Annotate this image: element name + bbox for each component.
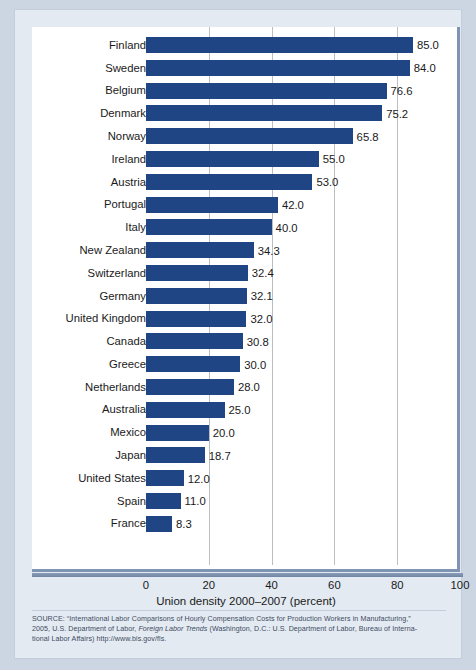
bar[interactable] bbox=[146, 516, 172, 532]
bar-row[interactable]: Mexico20.0 bbox=[32, 422, 457, 445]
bar-category-label: Sweden bbox=[34, 63, 146, 74]
bar[interactable] bbox=[146, 219, 272, 235]
bar-track: 42.0 bbox=[146, 194, 457, 217]
bar[interactable] bbox=[146, 288, 247, 304]
bar-value-label: 12.0 bbox=[184, 473, 210, 485]
bar-rows: Finland85.0Sweden84.0Belgium76.6Denmark7… bbox=[32, 34, 457, 558]
bar[interactable] bbox=[146, 83, 387, 99]
source-line-2-part-a: 2005, U.S. Department of Labor, bbox=[32, 625, 138, 633]
bar-value-label: 53.0 bbox=[312, 176, 338, 188]
bar-track: 65.8 bbox=[146, 125, 457, 148]
x-tick-label: 60 bbox=[328, 579, 341, 591]
bar[interactable] bbox=[146, 447, 205, 463]
bar-track: 8.3 bbox=[146, 513, 457, 536]
bar[interactable] bbox=[146, 37, 413, 53]
bar[interactable] bbox=[146, 242, 254, 258]
source-note: SOURCE: “International Labor Comparisons… bbox=[32, 614, 452, 644]
bar-row[interactable]: Denmark75.2 bbox=[32, 102, 457, 125]
bar-row[interactable]: Japan18.7 bbox=[32, 444, 457, 467]
bar[interactable] bbox=[146, 379, 234, 395]
bar-value-label: 20.0 bbox=[209, 427, 235, 439]
bar-row[interactable]: Greece30.0 bbox=[32, 353, 457, 376]
bar-row[interactable]: Belgium76.6 bbox=[32, 80, 457, 103]
bar-row[interactable]: Norway65.8 bbox=[32, 125, 457, 148]
source-line-1: SOURCE: “International Labor Comparisons… bbox=[32, 614, 452, 624]
bar-track: 30.8 bbox=[146, 330, 457, 353]
bar-category-label: Mexico bbox=[34, 427, 146, 438]
bar-category-label: Spain bbox=[34, 496, 146, 507]
bar-row[interactable]: Switzerland32.4 bbox=[32, 262, 457, 285]
bar-row[interactable]: Germany32.1 bbox=[32, 285, 457, 308]
bar[interactable] bbox=[146, 311, 246, 327]
bar-value-label: 30.0 bbox=[240, 359, 266, 371]
bar-row[interactable]: Ireland55.0 bbox=[32, 148, 457, 171]
bar-category-label: New Zealand bbox=[34, 245, 146, 256]
bar-value-label: 40.0 bbox=[272, 222, 298, 234]
bar[interactable] bbox=[146, 425, 209, 441]
bar[interactable] bbox=[146, 197, 278, 213]
bar-category-label: United States bbox=[34, 473, 146, 484]
bar-category-label: Finland bbox=[34, 40, 146, 51]
chart-panel: Finland85.0Sweden84.0Belgium76.6Denmark7… bbox=[32, 27, 460, 572]
bar-row[interactable]: United States12.0 bbox=[32, 467, 457, 490]
bar[interactable] bbox=[146, 60, 410, 76]
bar-row[interactable]: Austria53.0 bbox=[32, 171, 457, 194]
bar-row[interactable]: Finland85.0 bbox=[32, 34, 457, 57]
bar-row[interactable]: United Kingdom32.0 bbox=[32, 308, 457, 331]
bar-category-label: France bbox=[34, 518, 146, 529]
bar-value-label: 28.0 bbox=[234, 381, 260, 393]
bar-category-label: Canada bbox=[34, 336, 146, 347]
bar-category-label: Switzerland bbox=[34, 268, 146, 279]
bar-row[interactable]: New Zealand34.3 bbox=[32, 239, 457, 262]
x-axis-line bbox=[32, 573, 463, 577]
bar-value-label: 8.3 bbox=[172, 518, 192, 530]
source-publication-title: Foreign Labor Trends bbox=[138, 625, 207, 633]
bar[interactable] bbox=[146, 402, 225, 418]
bar-value-label: 76.6 bbox=[387, 85, 413, 97]
bar-track: 32.0 bbox=[146, 308, 457, 331]
bar[interactable] bbox=[146, 356, 240, 372]
bar[interactable] bbox=[146, 333, 243, 349]
bar-row[interactable]: Canada30.8 bbox=[32, 330, 457, 353]
bar-track: 20.0 bbox=[146, 422, 457, 445]
bar-track: 85.0 bbox=[146, 34, 457, 57]
bar-value-label: 55.0 bbox=[319, 153, 345, 165]
bar-value-label: 32.0 bbox=[246, 313, 272, 325]
source-line-2-part-b: (Washington, D.C.: U.S. Department of La… bbox=[207, 625, 417, 633]
bar-category-label: Belgium bbox=[34, 85, 146, 96]
bar-value-label: 32.1 bbox=[247, 290, 273, 302]
bar-row[interactable]: Portugal42.0 bbox=[32, 194, 457, 217]
bar-value-label: 84.0 bbox=[410, 62, 436, 74]
bar-track: 84.0 bbox=[146, 57, 457, 80]
bar-row[interactable]: Netherlands28.0 bbox=[32, 376, 457, 399]
bar-row[interactable]: Sweden84.0 bbox=[32, 57, 457, 80]
plot-area: Finland85.0Sweden84.0Belgium76.6Denmark7… bbox=[32, 27, 457, 569]
bar-value-label: 25.0 bbox=[225, 404, 251, 416]
bar-row[interactable]: Australia25.0 bbox=[32, 399, 457, 422]
x-axis-tick-labels: 020406080100 bbox=[32, 579, 460, 595]
bar-category-label: Norway bbox=[34, 131, 146, 142]
bar[interactable] bbox=[146, 128, 353, 144]
bar[interactable] bbox=[146, 105, 382, 121]
bar-track: 40.0 bbox=[146, 216, 457, 239]
bar-category-label: Portugal bbox=[34, 199, 146, 210]
bar-track: 32.4 bbox=[146, 262, 457, 285]
bar-row[interactable]: France8.3 bbox=[32, 513, 457, 536]
bar[interactable] bbox=[146, 174, 312, 190]
bar[interactable] bbox=[146, 151, 319, 167]
bar[interactable] bbox=[146, 470, 184, 486]
x-axis-title: Union density 2000–2007 (percent) bbox=[32, 595, 460, 607]
x-tick-label: 100 bbox=[451, 579, 470, 591]
bar-track: 28.0 bbox=[146, 376, 457, 399]
bar-row[interactable]: Spain11.0 bbox=[32, 490, 457, 513]
bar-row[interactable]: Italy40.0 bbox=[32, 216, 457, 239]
bar-category-label: Japan bbox=[34, 450, 146, 461]
source-line-3: tional Labor Affairs) http://www.bls.gov… bbox=[32, 634, 452, 644]
bar-track: 18.7 bbox=[146, 444, 457, 467]
bar[interactable] bbox=[146, 265, 248, 281]
bar-category-label: Greece bbox=[34, 359, 146, 370]
bar[interactable] bbox=[146, 493, 181, 509]
bar-value-label: 42.0 bbox=[278, 199, 304, 211]
bar-category-label: Austria bbox=[34, 177, 146, 188]
bar-value-label: 32.4 bbox=[248, 267, 274, 279]
